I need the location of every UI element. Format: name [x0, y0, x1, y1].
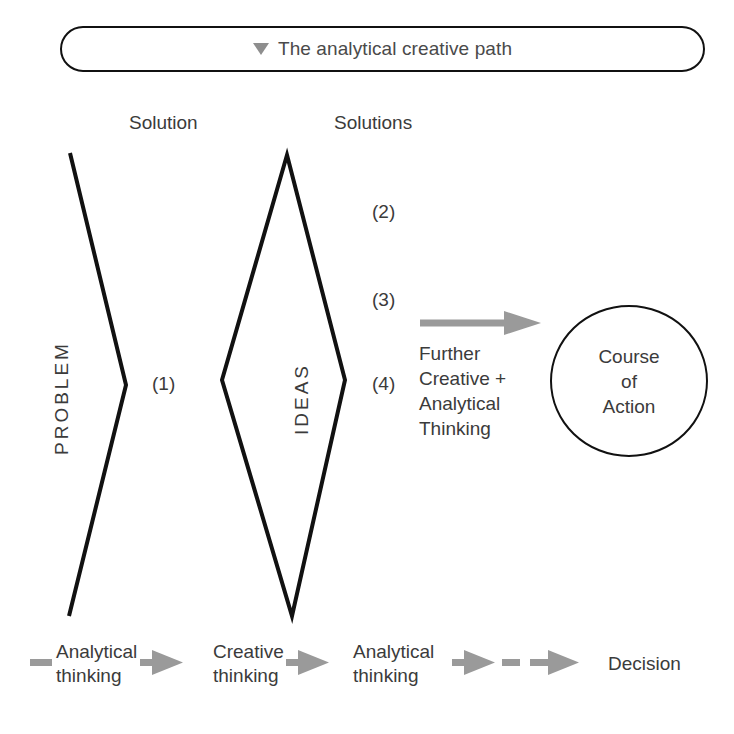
problem-label: PROBLEM — [50, 341, 74, 455]
course-of-action-label: Course of Action — [552, 307, 706, 455]
ideas-diamond-shape — [222, 155, 345, 616]
legend-step-1: Analytical thinking — [56, 640, 137, 688]
column-heading-solution: Solution — [129, 111, 198, 135]
problem-funnel-shape — [69, 153, 126, 616]
course-of-action-line-1: Course — [598, 344, 659, 369]
legend-step-4: Decision — [608, 652, 681, 676]
step-marker-1: (1) — [152, 372, 175, 396]
column-heading-solutions: Solutions — [334, 111, 412, 135]
further-thinking-label: Further Creative + Analytical Thinking — [419, 341, 506, 441]
course-of-action-line-3: Action — [603, 394, 656, 419]
header-banner[interactable]: The analytical creative path — [60, 26, 705, 72]
process-legend: Analytical thinking Creative thinking An… — [28, 636, 708, 706]
page-title: The analytical creative path — [278, 38, 512, 60]
further-thinking-arrow-icon — [420, 311, 541, 335]
ideas-label: IDEAS — [290, 363, 314, 435]
diagram-canvas: The analytical creative path Solution So… — [0, 0, 734, 734]
header-content: The analytical creative path — [62, 28, 703, 70]
course-of-action-circle[interactable]: Course of Action — [550, 305, 708, 457]
step-marker-3: (3) — [372, 288, 395, 312]
step-marker-2: (2) — [372, 200, 395, 224]
step-marker-4: (4) — [372, 372, 395, 396]
triangle-down-icon[interactable] — [253, 43, 269, 55]
legend-step-3: Analytical thinking — [353, 640, 434, 688]
course-of-action-line-2: of — [621, 369, 637, 394]
legend-step-2: Creative thinking — [213, 640, 284, 688]
